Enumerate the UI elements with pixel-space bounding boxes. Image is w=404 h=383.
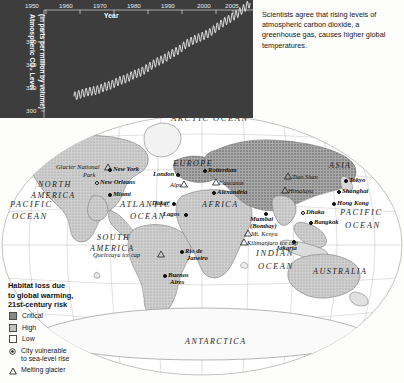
climate-infographic: ARCTIC OCEAN ATLANTIC OCEAN PACIFIC OCEA…	[0, 0, 404, 383]
chart-ytick-360: 360	[26, 38, 36, 45]
city-marker-lagos[interactable]	[184, 213, 188, 217]
chart-xtick-1990: 1990	[161, 2, 175, 9]
legend-item-high[interactable]: High	[8, 324, 128, 333]
city-marker-rio-de-janeiro[interactable]	[180, 250, 184, 254]
co2-chart-panel[interactable]: Year Atmospheric CO₂ Level (in parts per…	[0, 0, 253, 118]
chart-xtick-1950: 1950	[25, 2, 39, 9]
city-marker-bangkok[interactable]	[309, 221, 313, 225]
legend-label-melting-glacier: Melting glacier	[21, 366, 65, 374]
legend-title-line1: Habitat loss due	[8, 281, 128, 291]
city-marker-miami[interactable]	[108, 193, 112, 197]
city-marker-shanghai[interactable]	[337, 190, 341, 194]
legend-item-critical[interactable]: Critical	[8, 312, 128, 321]
chart-x-axis-title: Year	[104, 12, 119, 19]
chart-xtick-2005: 2005	[225, 2, 239, 9]
co2-chart-graphic	[0, 0, 253, 118]
caption-text: Scientists agree that rising levels of a…	[262, 10, 398, 51]
chart-xtick-1980: 1980	[127, 2, 141, 9]
glacier-marker-himalaya[interactable]	[281, 186, 289, 194]
glacier-marker-glacier-national-park[interactable]	[104, 163, 112, 171]
glacier-marker-caucasus[interactable]	[212, 178, 220, 186]
legend-swatch-critical	[9, 312, 17, 320]
legend-swatch-low	[9, 335, 17, 343]
city-marker-mumbai[interactable]	[264, 212, 268, 216]
legend-label-high: High	[22, 324, 36, 332]
chart-xtick-2000: 2000	[197, 2, 211, 9]
chart-xtick-1960: 1960	[59, 2, 73, 9]
chart-y-axis-subtitle: (in parts per million by volume)	[39, 14, 46, 109]
legend-label-low: Low	[22, 335, 35, 343]
city-marker-jakarta[interactable]	[292, 240, 296, 244]
city-marker-london[interactable]	[176, 173, 180, 177]
chart-ytick-300: 300	[26, 107, 36, 114]
legend-item-city-vulnerable[interactable]: City vulnerable to sea-level rise	[8, 347, 128, 364]
glacier-marker-kilimanjaro[interactable]	[240, 238, 248, 246]
chart-ytick-340: 340	[26, 61, 36, 68]
chart-ytick-320: 320	[26, 84, 36, 91]
glacier-triangle-icon	[8, 366, 17, 375]
chart-xtick-1970: 1970	[93, 2, 107, 9]
city-marker-icon	[8, 347, 17, 356]
legend-item-melting-glacier[interactable]: Melting glacier	[8, 366, 128, 375]
city-marker-dhaka[interactable]	[301, 211, 305, 215]
legend-title-line2: to global warming,	[8, 291, 128, 301]
glacier-marker-tian-shan[interactable]	[284, 172, 292, 180]
legend-label-critical: Critical	[22, 312, 43, 320]
city-marker-hong-kong[interactable]	[332, 202, 336, 206]
glacier-marker-alps[interactable]	[180, 180, 188, 188]
legend-label-city-vulnerable: City vulnerable to sea-level rise	[21, 347, 69, 363]
glacier-marker-mt-kenya[interactable]	[244, 229, 252, 237]
city-marker-rotterdam[interactable]	[203, 169, 207, 173]
map-legend: Habitat loss due to global warming, 21st…	[8, 281, 128, 375]
city-marker-alexandria[interactable]	[212, 191, 216, 195]
legend-title: Habitat loss due to global warming, 21st…	[8, 281, 128, 310]
city-marker-dakar[interactable]	[172, 202, 176, 206]
legend-label-city-line2: to sea-level rise	[21, 355, 69, 362]
city-marker-tokyo[interactable]	[344, 179, 348, 183]
legend-swatch-high	[9, 324, 17, 332]
glacier-marker-quelccaya[interactable]	[157, 250, 165, 258]
legend-item-low[interactable]: Low	[8, 335, 128, 344]
city-marker-buenos-aires[interactable]	[163, 274, 167, 278]
legend-title-line3: 21st-century risk	[8, 300, 128, 310]
city-marker-new-orleans[interactable]	[95, 181, 99, 185]
chart-y-axis-title: Atmospheric CO₂ Level	[29, 14, 36, 90]
legend-label-city-line1: City vulnerable	[21, 347, 67, 354]
